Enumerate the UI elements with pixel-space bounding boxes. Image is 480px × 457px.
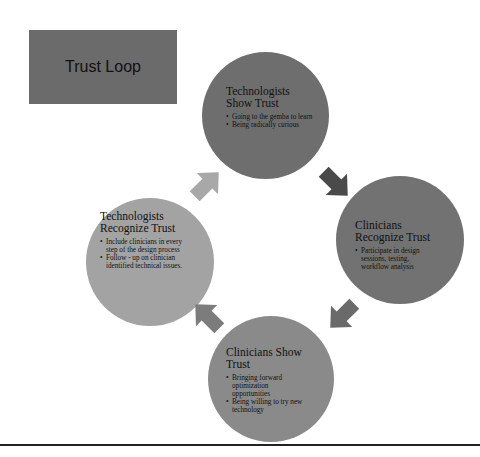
- arrow-clin-show-to-tech-recognize-icon: [185, 294, 231, 340]
- page-bottom-rule: [0, 444, 480, 446]
- heading-line: Clinicians: [355, 219, 450, 231]
- arrow-tech-recognize-to-tech-show-icon: [183, 162, 229, 208]
- bullet-item: Being radically curious: [226, 121, 314, 129]
- bullet-item: Being willing to try new technology: [226, 398, 322, 414]
- bullet-item: Include clinicians in every step of the …: [100, 238, 188, 254]
- node-bullets: Going to the gemba to learn Being radica…: [226, 113, 314, 129]
- heading-line: Recognize Trust: [355, 231, 450, 243]
- node-technologists-show-trust: Technologists Show Trust Going to the ge…: [202, 52, 329, 179]
- heading-line: Trust: [226, 358, 326, 370]
- bullet-item: Going to the gemba to learn: [226, 113, 314, 121]
- node-bullets: Bringing forward optimization opportunit…: [226, 374, 326, 414]
- bullet-item: Bringing forward optimization opportunit…: [226, 374, 292, 398]
- heading-line: Technologists: [100, 210, 200, 222]
- arrow-clin-recognize-to-clin-show-icon: [320, 292, 366, 338]
- arrow-tech-show-to-clin-recognize-icon: [312, 160, 358, 206]
- node-bullets: Include clinicians in every step of the …: [100, 238, 200, 270]
- heading-line: Clinicians Show: [226, 346, 326, 358]
- node-heading: Technologists Show Trust: [226, 85, 314, 109]
- diagram-title: Trust Loop: [65, 58, 141, 76]
- diagram-title-box: Trust Loop: [29, 30, 177, 104]
- heading-line: Show Trust: [226, 97, 314, 109]
- node-bullets: Participate in design sessions, testing,…: [355, 247, 450, 271]
- node-heading: Clinicians Show Trust: [226, 346, 326, 370]
- bullet-item: Follow - up on clinician identified tech…: [100, 254, 188, 270]
- bullet-item: Participate in design sessions, testing,…: [355, 247, 431, 271]
- node-heading: Clinicians Recognize Trust: [355, 219, 450, 243]
- heading-line: Recognize Trust: [100, 222, 200, 234]
- node-heading: Technologists Recognize Trust: [100, 210, 200, 234]
- heading-line: Technologists: [226, 85, 314, 97]
